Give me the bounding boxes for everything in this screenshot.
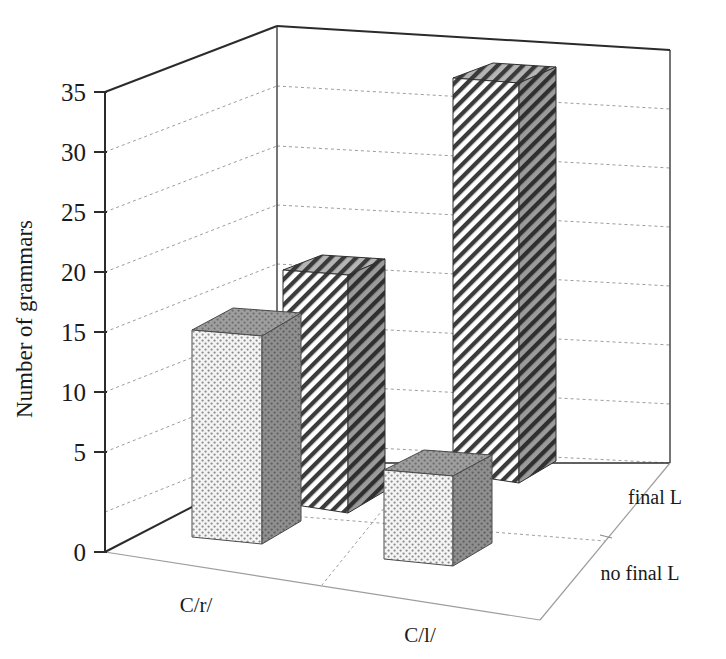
- chart-container: 35 30 25 20 15 10 5 0 Number of grammars…: [0, 0, 726, 659]
- x-category-label-cl: C/l/: [404, 623, 436, 647]
- bar-cr-no-final-l[interactable]: [192, 308, 301, 544]
- bar-cl-final-l[interactable]: [453, 63, 556, 483]
- y-tick-label-30: 30: [61, 139, 86, 166]
- y-tick-label-15: 15: [61, 319, 86, 346]
- bar-side-face: [519, 67, 556, 483]
- bar-front-face: [453, 78, 519, 483]
- depth-label-final-l: final L: [628, 486, 682, 508]
- y-tick-label-0: 0: [74, 539, 87, 566]
- bar-front-face: [384, 470, 453, 566]
- bar-front-face: [192, 330, 262, 544]
- bar-side-face: [348, 259, 385, 513]
- depth-label-no-final-l: no final L: [601, 562, 680, 584]
- y-tick-label-5: 5: [74, 439, 87, 466]
- y-tick-label-10: 10: [61, 379, 86, 406]
- y-tick-label-35: 35: [61, 79, 86, 106]
- x-category-label-cr: C/r/: [180, 593, 213, 617]
- bar-cl-no-final-l[interactable]: [384, 450, 492, 566]
- bar-chart-3d: 35 30 25 20 15 10 5 0 Number of grammars…: [0, 0, 726, 659]
- y-axis-title: Number of grammars: [12, 220, 37, 418]
- y-tick-label-25: 25: [61, 199, 86, 226]
- bar-side-face: [262, 313, 301, 544]
- y-tick-label-20: 20: [61, 259, 86, 286]
